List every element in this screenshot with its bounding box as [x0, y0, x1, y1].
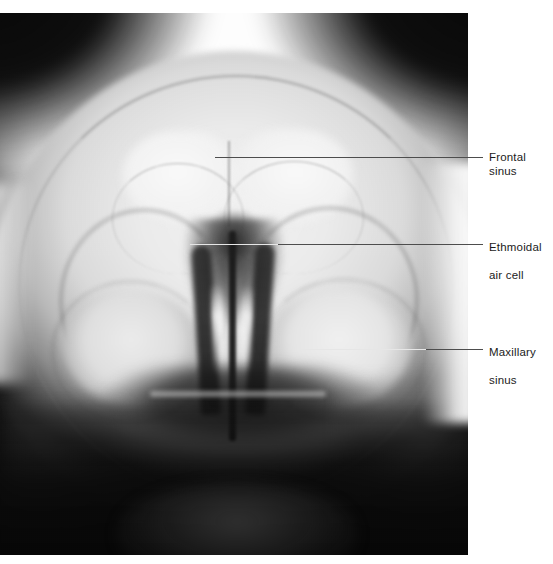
film-edge-glow-left — [0, 183, 32, 383]
label-ethmoidal-air-cell-line2: air cell — [489, 268, 542, 282]
leader-line-ethmoidal-air-cell — [278, 244, 483, 245]
leader-line-maxillary-sinus-light — [300, 349, 428, 350]
label-ethmoidal-air-cell-line1: Ethmoidal — [489, 240, 542, 254]
radiograph-figure: Frontal sinus Ethmoidal air cell Maxilla… — [0, 0, 553, 564]
label-maxillary-sinus-line1: Maxillary — [489, 345, 536, 359]
leader-line-ethmoidal-air-cell-light — [190, 244, 280, 245]
xray-image — [0, 13, 468, 555]
film-edge-glow-right — [422, 163, 468, 423]
label-maxillary-sinus-line2: sinus — [489, 373, 536, 387]
hard-palate-line — [150, 391, 326, 397]
label-frontal-sinus: Frontal sinus — [489, 150, 553, 178]
label-ethmoidal-air-cell: Ethmoidal air cell — [489, 226, 542, 296]
leader-line-maxillary-sinus — [426, 349, 483, 350]
leader-line-frontal-sinus — [215, 157, 483, 158]
label-maxillary-sinus: Maxillary sinus — [489, 331, 536, 401]
